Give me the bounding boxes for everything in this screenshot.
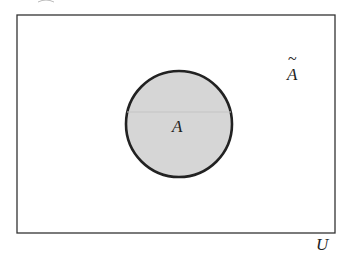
universe-label: U: [316, 235, 330, 254]
tilde-mark: ~: [288, 50, 297, 67]
set-a-label: A: [171, 117, 183, 136]
cropped-text-fragment: [38, 0, 54, 2]
complement-label: A: [286, 65, 298, 84]
venn-diagram: A A ~ U: [0, 0, 353, 261]
